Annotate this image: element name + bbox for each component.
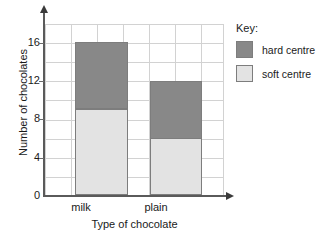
legend-title: Key: bbox=[236, 22, 323, 35]
chart-container: 16 12 8 4 0 milk plain Type of chocolate… bbox=[0, 0, 323, 235]
y-tick-mark-4 bbox=[39, 158, 44, 159]
y-tick-mark-8 bbox=[39, 119, 44, 120]
x-tick-label-milk: milk bbox=[50, 201, 112, 214]
x-tick-label-plain: plain bbox=[125, 201, 187, 214]
legend: Key: hard centre soft centre bbox=[236, 22, 323, 89]
legend-item-hard-centre[interactable]: hard centre bbox=[236, 41, 323, 58]
y-tick-mark-12 bbox=[39, 81, 44, 82]
bar-plain-segment-hard-centre[interactable] bbox=[150, 81, 202, 139]
gridline-v-1b bbox=[71, 24, 72, 196]
legend-item-soft-centre[interactable]: soft centre bbox=[236, 65, 323, 82]
plot-area bbox=[45, 24, 224, 196]
legend-swatch-hard-centre-icon bbox=[236, 41, 253, 58]
bar-milk-segment-hard-centre[interactable] bbox=[75, 42, 128, 109]
legend-swatch-soft-centre-icon bbox=[236, 65, 253, 82]
legend-label-hard-centre: hard centre bbox=[262, 44, 315, 56]
bar-milk-segment-soft-centre[interactable] bbox=[75, 109, 128, 195]
gridline-v-1 bbox=[45, 24, 46, 196]
y-axis-title: Number of chocolates bbox=[17, 28, 30, 178]
bar-plain[interactable] bbox=[150, 24, 202, 196]
x-axis-arrow-icon bbox=[226, 192, 234, 200]
gridline-v-7 bbox=[223, 24, 224, 196]
y-axis-line bbox=[43, 12, 45, 197]
bar-milk[interactable] bbox=[75, 24, 128, 196]
bar-plain-segment-soft-centre[interactable] bbox=[150, 138, 202, 195]
y-axis-arrow-icon bbox=[40, 5, 48, 13]
x-axis-line bbox=[43, 195, 227, 197]
y-tick-mark-16 bbox=[39, 43, 44, 44]
x-axis-title: Type of chocolate bbox=[45, 218, 224, 231]
y-tick-label-0: 0 bbox=[4, 190, 40, 201]
legend-label-soft-centre: soft centre bbox=[262, 68, 311, 80]
